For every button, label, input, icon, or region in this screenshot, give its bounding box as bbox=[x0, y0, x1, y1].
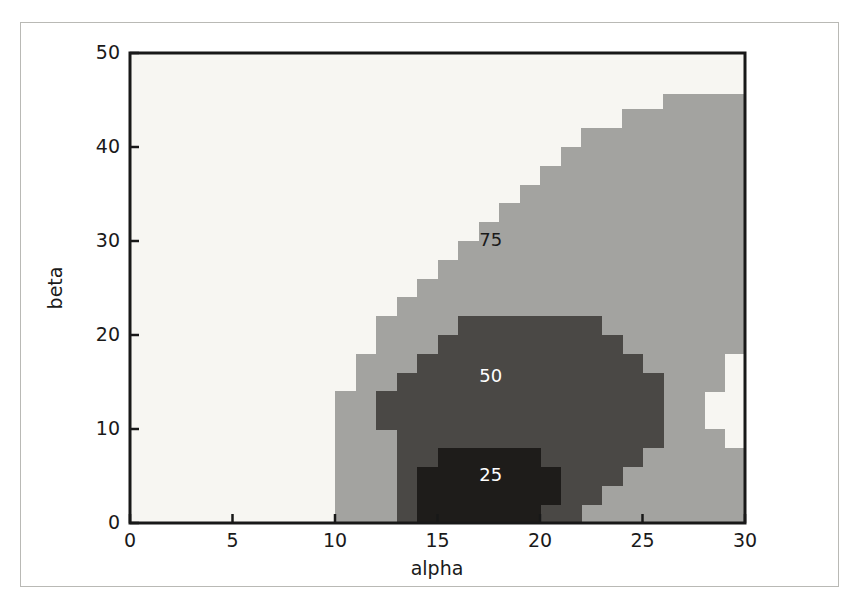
y-tick-label: 20 bbox=[96, 323, 120, 345]
plot-container: 75 50 25 051015202530 01020304050 alpha … bbox=[0, 0, 859, 602]
y-tick-label: 0 bbox=[108, 511, 120, 533]
contour-cell bbox=[376, 410, 664, 429]
contour-level-label-75: 75 bbox=[479, 229, 502, 250]
contour-cell bbox=[417, 504, 541, 523]
contour-cell bbox=[540, 166, 746, 185]
y-tick-label: 40 bbox=[96, 135, 120, 157]
x-tick-label: 25 bbox=[630, 529, 654, 551]
y-tick-label: 30 bbox=[96, 229, 120, 251]
contour-level-label-25: 25 bbox=[479, 464, 502, 485]
contour-level-label-50: 50 bbox=[479, 365, 502, 386]
y-tick-label: 50 bbox=[96, 41, 120, 63]
contour-plot-svg: 75 50 25 051015202530 01020304050 alpha … bbox=[0, 0, 859, 602]
figure-canvas: 75 50 25 051015202530 01020304050 alpha … bbox=[0, 0, 859, 602]
x-tick-label: 10 bbox=[323, 529, 347, 551]
contour-cell bbox=[438, 260, 746, 279]
contour-cell bbox=[417, 279, 746, 298]
y-axis-title: beta bbox=[44, 267, 66, 310]
contour-cell bbox=[581, 128, 746, 147]
contour-cell bbox=[438, 335, 623, 354]
x-tick-label: 15 bbox=[425, 529, 449, 551]
contour-cell bbox=[520, 185, 746, 204]
contour-cell bbox=[397, 297, 746, 316]
contour-cell bbox=[417, 485, 561, 504]
contour-cell bbox=[397, 373, 664, 392]
x-axis-title: alpha bbox=[411, 557, 464, 579]
contour-cell bbox=[397, 429, 664, 448]
contour-cell bbox=[499, 203, 746, 222]
contour-cell bbox=[561, 147, 746, 166]
contour-cell bbox=[479, 222, 746, 241]
contour-cell bbox=[458, 316, 602, 335]
x-tick-label: 5 bbox=[226, 529, 238, 551]
x-tick-label: 20 bbox=[528, 529, 552, 551]
contour-cell bbox=[417, 354, 643, 373]
x-tick-label: 30 bbox=[733, 529, 757, 551]
contour-cell bbox=[376, 391, 664, 410]
y-tick-label: 10 bbox=[96, 417, 120, 439]
contour-cell bbox=[663, 94, 746, 110]
contour-band-25 bbox=[417, 448, 561, 524]
x-tick-label: 0 bbox=[124, 529, 136, 551]
contour-cell bbox=[622, 109, 746, 128]
